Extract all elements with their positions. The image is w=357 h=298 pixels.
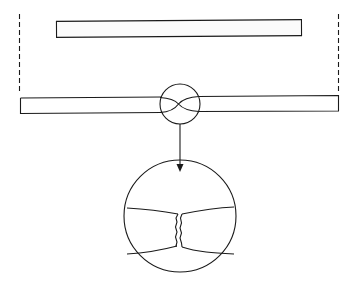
fracture-surface-left [176,214,179,246]
detail-circle [124,160,236,272]
necking-circle [160,84,200,124]
arrow-head-icon [177,164,184,172]
original-bar [56,20,301,38]
necking-shape [160,97,199,113]
stretched-bar-left [21,97,163,114]
stretched-bar-right [198,96,339,112]
detail-left-fragment [127,208,178,254]
fracture-surface-right [180,214,182,247]
fracture-diagram [0,0,357,298]
